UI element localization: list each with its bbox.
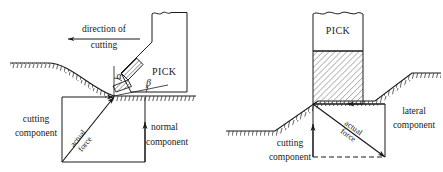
left-direction-annotation: direction of cutting (68, 24, 140, 50)
left-actual-force-label: actual force (68, 127, 95, 154)
right-pick-body: PICK (313, 12, 363, 104)
right-pick-hatched-section (313, 51, 363, 104)
right-actual-force-label: actual force (338, 119, 365, 145)
left-pick-body (121, 12, 187, 92)
left-pick-tip-lower (113, 80, 132, 92)
left-force-rectangle (62, 97, 145, 162)
left-angle-beta-label: β (145, 77, 151, 88)
left-actual-force-arrow (62, 97, 114, 162)
right-lateral-component-label-line1: lateral (402, 106, 426, 116)
left-cutting-component-label-line1: cutting (23, 114, 50, 124)
left-force-box (62, 97, 145, 162)
right-cutting-component-label-line1: cutting (277, 138, 304, 148)
left-angle-alpha-label: α (117, 70, 123, 81)
technical-diagram-svg: α β direction of cutting PICK cutting co… (0, 0, 443, 172)
left-pick-label: PICK (152, 66, 177, 77)
left-direction-label-line1: direction of (82, 24, 127, 34)
right-cutting-component-label-line2: component (269, 152, 312, 162)
left-direction-label-line2: cutting (91, 40, 118, 50)
left-diagram: α β direction of cutting PICK cutting co… (10, 12, 196, 162)
left-normal-component-label-line2: component (146, 137, 189, 147)
right-diagram: PICK cutting component lateral component… (226, 12, 441, 162)
left-cutting-component-label-line2: component (15, 128, 58, 138)
right-lateral-component-label-line2: component (393, 120, 436, 130)
right-pick-label: PICK (326, 25, 351, 36)
left-normal-component-label-line1: normal (151, 122, 178, 132)
figure-container: α β direction of cutting PICK cutting co… (0, 0, 443, 172)
left-pick-outline (131, 12, 187, 92)
